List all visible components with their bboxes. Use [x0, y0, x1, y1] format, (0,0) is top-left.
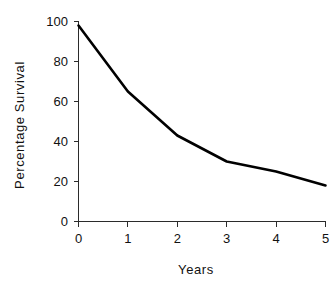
y-tick-label-20: 20: [54, 174, 68, 189]
survival-line-chart: 100 80 60 40 20 0 0 1 2 3 4 5 Percentage…: [0, 0, 336, 288]
chart-background: [0, 0, 336, 288]
x-tick-label-1: 1: [124, 231, 131, 246]
y-tick-label-60: 60: [54, 94, 68, 109]
x-tick-label-5: 5: [322, 231, 329, 246]
y-tick-label-40: 40: [54, 134, 68, 149]
y-axis-title: Percentage Survival: [12, 61, 27, 189]
x-tick-label-0: 0: [75, 231, 82, 246]
x-tick-label-4: 4: [272, 231, 279, 246]
y-tick-label-80: 80: [54, 54, 68, 69]
x-tick-label-2: 2: [174, 231, 181, 246]
x-tick-label-3: 3: [223, 231, 230, 246]
chart-figure: 100 80 60 40 20 0 0 1 2 3 4 5 Percentage…: [0, 0, 336, 288]
y-tick-label-0: 0: [61, 214, 68, 229]
x-axis-title: Years: [178, 262, 214, 277]
y-tick-label-100: 100: [46, 14, 68, 29]
